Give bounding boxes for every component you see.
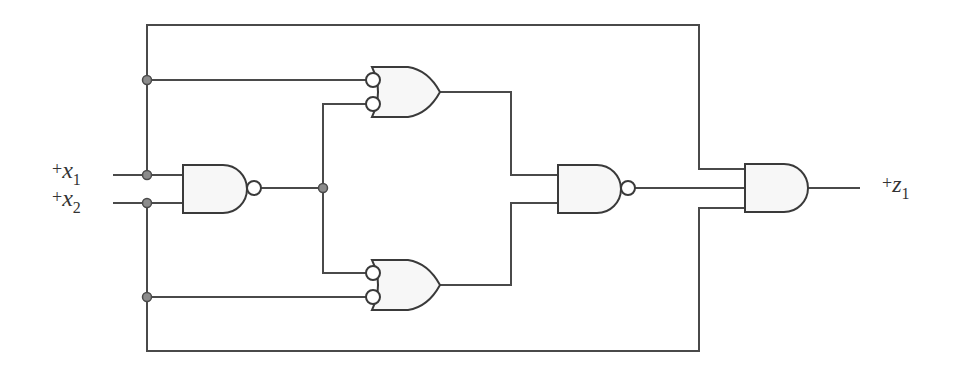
wire-x2-bus [147,203,745,351]
junction-dot-nand1-out [319,184,328,193]
output-label-z1: +z1 [882,172,910,202]
inversion-bubble [366,290,380,304]
junction-dot-x2-bottom [143,293,152,302]
wire-or-bottom-output [440,203,558,285]
nand-gate-1 [183,165,261,213]
inversion-bubble [366,73,380,87]
nand-gate-2 [558,165,635,213]
wire-or-top-output [440,92,558,175]
inversion-bubble [366,97,380,111]
junction-dot-x1 [143,171,152,180]
junction-dot-x2 [143,199,152,208]
input-label-x2: +x2 [52,186,81,216]
input-label-x1: +x1 [52,158,81,188]
wire-x1-bus [147,25,745,175]
logic-circuit-diagram [0,0,960,368]
inversion-bubble [621,181,635,195]
inversion-bubble [366,266,380,280]
inversion-bubble [247,181,261,195]
wire-nand1-split [323,104,366,273]
or-gate-bottom [366,260,440,310]
and-gate-output [745,164,808,212]
junction-dot-x1-top [143,76,152,85]
or-gate-top [366,67,440,117]
